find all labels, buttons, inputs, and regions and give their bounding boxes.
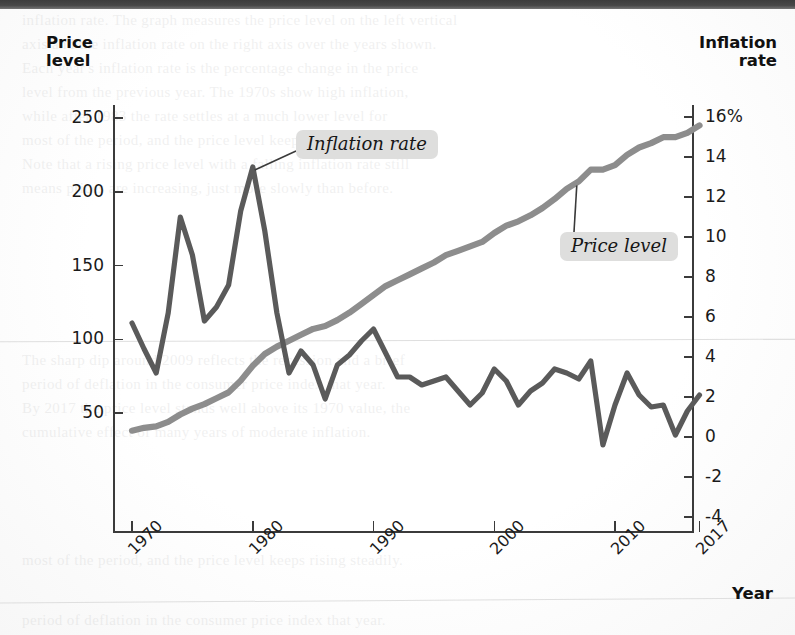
inflation-rate-line: [132, 167, 700, 445]
inflation-rate-callout: Inflation rate: [296, 130, 438, 159]
price-callout-leader-line: [574, 185, 577, 232]
chart-plot-area: [0, 0, 795, 635]
price-level-callout: Price level: [560, 232, 678, 261]
price-level-line: [132, 125, 700, 430]
figure-container: inflation rate. The graph measures the p…: [0, 0, 795, 635]
inflation-callout-leader-line: [255, 151, 296, 170]
